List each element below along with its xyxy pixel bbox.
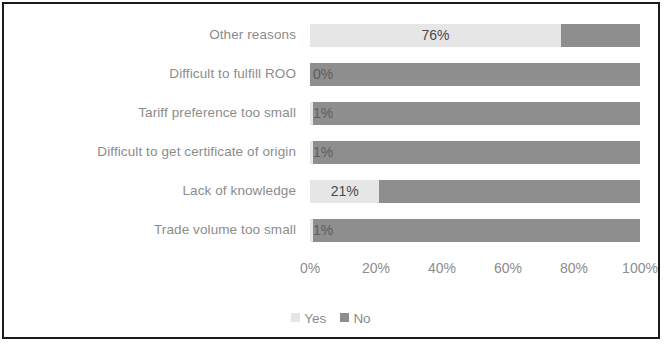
legend-swatch-icon: [340, 313, 349, 322]
bar-row: 1%: [310, 219, 640, 242]
bar-segment-no: [561, 24, 640, 47]
legend-item[interactable]: Yes: [291, 310, 326, 326]
bar-row: 1%: [310, 102, 640, 125]
legend-item[interactable]: No: [340, 310, 370, 326]
x-axis-tick-label: 80%: [560, 260, 588, 276]
bar-row: 1%: [310, 141, 640, 164]
bar-row: 21%: [310, 180, 640, 203]
category-label: Difficult to get certificate of origin: [0, 144, 296, 159]
legend-swatch-icon: [291, 313, 300, 322]
plot-area: Other reasons76%Difficult to fulfill ROO…: [4, 4, 658, 337]
x-axis-tick-label: 0%: [300, 260, 320, 276]
category-label: Difficult to fulfill ROO: [0, 66, 296, 81]
bar-segment-no: [310, 63, 640, 86]
category-label: Lack of knowledge: [0, 183, 296, 198]
bar-row: 76%: [310, 24, 640, 47]
x-axis-tick-label: 20%: [362, 260, 390, 276]
bar-segment-no: [313, 219, 640, 242]
category-label: Tariff preference too small: [0, 105, 296, 120]
legend-label: No: [353, 311, 370, 326]
bar-value-label: 1%: [313, 102, 333, 125]
bar-value-label: 1%: [313, 141, 333, 164]
bar-segment-no: [313, 141, 640, 164]
x-axis-tick-label: 100%: [622, 260, 658, 276]
x-axis-tick-label: 40%: [428, 260, 456, 276]
x-axis: 0%20%40%60%80%100%: [4, 260, 658, 282]
bar-segment-no: [313, 102, 640, 125]
bar-value-label: 76%: [421, 24, 449, 47]
legend-label: Yes: [304, 311, 326, 326]
chart-frame: Other reasons76%Difficult to fulfill ROO…: [2, 2, 660, 339]
bar-value-label: 1%: [313, 219, 333, 242]
bar-segment-no: [379, 180, 640, 203]
bar-row: 0%: [310, 63, 640, 86]
x-axis-tick-label: 60%: [494, 260, 522, 276]
category-label: Trade volume too small: [0, 222, 296, 237]
category-label: Other reasons: [0, 27, 296, 42]
bar-value-label: 0%: [313, 63, 333, 86]
bar-value-label: 21%: [331, 180, 359, 203]
chart-legend: YesNo: [4, 310, 658, 326]
